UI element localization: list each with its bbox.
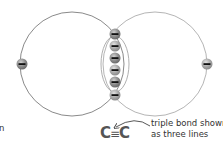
electron-shared-top — [110, 29, 121, 40]
electron-right-outer — [202, 59, 213, 70]
electron-bond-2 — [110, 53, 121, 64]
annotation-line-2: as three lines — [151, 129, 223, 140]
formula-right-carbon: C — [119, 124, 129, 142]
electron-bond-3 — [110, 65, 121, 76]
triple-bond-formula: C≡C — [100, 124, 129, 142]
electron-bond-4 — [110, 77, 121, 88]
annotation-text: triple bond shown as three lines — [151, 118, 223, 140]
left-carbon-shell — [20, 12, 124, 116]
electron-bond-1 — [110, 41, 121, 52]
right-carbon-shell — [103, 12, 207, 116]
formula-left-carbon: C — [100, 124, 110, 142]
electron-left-outer — [17, 59, 28, 70]
cut-off-left-label: n — [0, 123, 4, 134]
formula-triple-bond-symbol: ≡ — [110, 127, 119, 141]
annotation-line-1: triple bond shown — [151, 118, 223, 129]
electron-shared-bottom — [110, 90, 121, 101]
